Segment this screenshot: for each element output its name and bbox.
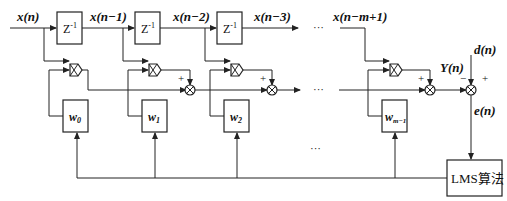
ellipsis-bottom: ··· bbox=[310, 142, 321, 154]
tap-label-2: x(n−2) bbox=[172, 9, 210, 24]
adder-last bbox=[425, 85, 435, 95]
delay-block-3: Z-1 bbox=[217, 12, 242, 44]
weight-box-2: w2 bbox=[224, 100, 249, 132]
plus-sign-last: + bbox=[418, 72, 424, 84]
ellipsis-top: ··· bbox=[313, 21, 324, 33]
lms-filter-diagram: x(n) Z-1 Z-1 Z-1 x(n−1) x(n−2) x(n−3) ··… bbox=[0, 0, 507, 201]
svg-text:LMS算法: LMS算法 bbox=[451, 171, 504, 186]
ellipsis-middle: ··· bbox=[313, 83, 324, 95]
tap-label-3: x(n−3) bbox=[253, 9, 291, 24]
weight-box-last: wm−1 bbox=[382, 100, 407, 132]
error-label: e(n) bbox=[474, 103, 496, 118]
adder-1 bbox=[185, 85, 195, 95]
multiplier-last bbox=[390, 64, 402, 76]
lms-block: LMS算法 bbox=[447, 160, 504, 196]
plus-sign-2: + bbox=[260, 72, 266, 84]
delay-block-2: Z-1 bbox=[135, 12, 160, 44]
weight-box-1: w1 bbox=[142, 100, 167, 132]
tap-label-last: x(n−m+1) bbox=[332, 9, 387, 24]
plus-sign-1: + bbox=[178, 72, 184, 84]
multiplier-1 bbox=[149, 64, 161, 76]
tap-label-1: x(n−1) bbox=[89, 9, 127, 24]
input-label: x(n) bbox=[16, 9, 39, 24]
error-adder bbox=[466, 85, 476, 95]
adder-2 bbox=[267, 85, 277, 95]
minus-sign: − bbox=[460, 72, 466, 84]
delay-block-1: Z-1 bbox=[57, 12, 82, 44]
weight-box-0: w0 bbox=[63, 100, 88, 132]
plus-sign-desired: + bbox=[482, 72, 488, 84]
multiplier-2 bbox=[231, 64, 243, 76]
desired-label: d(n) bbox=[474, 42, 496, 57]
multiplier-0 bbox=[70, 64, 82, 76]
